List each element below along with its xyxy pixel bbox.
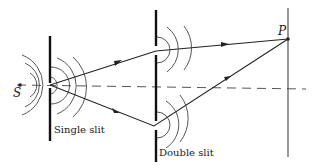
lower-ray [50,39,288,126]
central-axis [17,85,306,89]
source-label: S [13,86,21,100]
point-p [286,37,290,41]
arrow-upper-1 [114,60,122,66]
ray-arrows [112,42,231,113]
single-slit-label: Single slit [54,124,105,135]
diagram-canvas: S [0,0,314,168]
rays [50,39,288,126]
double-slit-label: Double slit [159,147,214,158]
point-p-label: P [277,24,287,38]
